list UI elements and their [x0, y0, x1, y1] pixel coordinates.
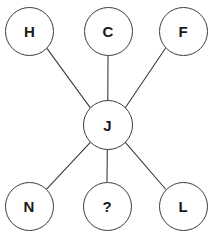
- node-label: J: [103, 118, 111, 133]
- edge-j-n: [47, 143, 91, 190]
- node-j[interactable]: J: [83, 100, 133, 150]
- diagram-canvas: HCFJN?L: [0, 0, 213, 236]
- node-f[interactable]: F: [159, 7, 208, 56]
- node-label: ?: [102, 199, 111, 214]
- node-l[interactable]: L: [159, 182, 208, 231]
- node-label: N: [24, 199, 35, 214]
- node-h[interactable]: H: [5, 7, 54, 56]
- node-c[interactable]: C: [84, 7, 133, 56]
- edge-j-h: [47, 49, 90, 108]
- edge-j-l: [125, 142, 165, 189]
- node-label: H: [24, 24, 35, 39]
- node-label: C: [103, 24, 114, 39]
- node-unknown[interactable]: ?: [83, 182, 132, 231]
- node-label: L: [178, 199, 187, 214]
- edge-j-f: [125, 49, 165, 108]
- node-n[interactable]: N: [5, 182, 54, 231]
- node-label: F: [178, 24, 187, 39]
